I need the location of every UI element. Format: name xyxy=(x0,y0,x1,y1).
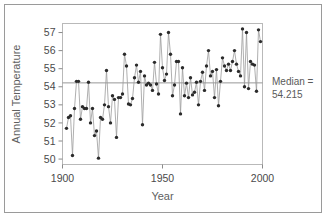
annual-temperature-chart: 5051525354555657 190019502000 Year Annua… xyxy=(0,0,326,217)
data-point xyxy=(209,74,212,77)
data-point xyxy=(97,156,100,159)
data-point xyxy=(233,49,236,52)
data-point xyxy=(161,66,164,69)
data-point xyxy=(109,121,112,124)
data-point xyxy=(93,134,96,137)
data-point xyxy=(131,97,134,100)
data-point xyxy=(103,103,106,106)
data-point xyxy=(113,98,116,101)
data-point xyxy=(249,60,252,63)
data-point xyxy=(183,94,186,97)
data-point xyxy=(115,136,118,139)
data-point xyxy=(143,74,146,77)
data-point xyxy=(141,123,144,126)
x-axis-title: Year xyxy=(151,190,174,202)
data-point xyxy=(235,62,238,65)
data-point xyxy=(133,76,136,79)
data-point xyxy=(247,87,250,90)
data-point xyxy=(105,69,108,72)
data-point xyxy=(205,64,208,67)
data-point xyxy=(149,83,152,86)
data-point xyxy=(257,28,260,31)
data-point xyxy=(87,81,90,84)
data-point xyxy=(241,27,244,30)
median-annotation-line1: Median = xyxy=(272,76,314,87)
temperature-data-points xyxy=(65,27,262,160)
data-point xyxy=(69,114,72,117)
data-point xyxy=(71,154,74,157)
data-point xyxy=(189,76,192,79)
data-point xyxy=(253,63,256,66)
y-axis-title: Annual Temperature xyxy=(10,45,22,144)
data-point xyxy=(185,81,188,84)
data-point xyxy=(231,60,234,63)
data-point xyxy=(237,70,240,73)
data-point xyxy=(191,93,194,96)
median-annotation-line2: 54.215 xyxy=(272,89,303,100)
data-point xyxy=(167,31,170,34)
data-point xyxy=(219,80,222,83)
data-point xyxy=(101,118,104,121)
plot-area-border xyxy=(63,24,263,165)
y-axis-ticks: 5051525354555657 xyxy=(44,26,63,165)
x-tick-label: 2000 xyxy=(251,172,275,184)
data-point xyxy=(199,80,202,83)
y-tick-label: 52 xyxy=(44,117,56,129)
data-point xyxy=(155,82,158,85)
data-point xyxy=(207,49,210,52)
data-point xyxy=(111,94,114,97)
y-tick-label: 54 xyxy=(44,80,56,92)
data-point xyxy=(223,64,226,67)
data-point xyxy=(243,85,246,88)
data-point xyxy=(181,66,184,69)
data-point xyxy=(65,127,68,130)
data-point xyxy=(139,70,142,73)
data-point xyxy=(221,56,224,59)
y-tick-label: 55 xyxy=(44,62,56,74)
data-point xyxy=(211,70,214,73)
data-point xyxy=(91,107,94,110)
temperature-series-line xyxy=(67,29,261,158)
data-point xyxy=(169,53,172,56)
y-tick-label: 57 xyxy=(44,26,56,38)
data-point xyxy=(227,62,230,65)
data-point xyxy=(171,94,174,97)
data-point xyxy=(203,89,206,92)
data-point xyxy=(153,61,156,64)
data-point xyxy=(187,96,190,99)
data-point xyxy=(197,103,200,106)
data-point xyxy=(125,64,128,67)
data-point xyxy=(195,81,198,84)
data-point xyxy=(89,121,92,124)
chart-figure: 5051525354555657 190019502000 Year Annua… xyxy=(0,0,326,217)
data-point xyxy=(259,40,262,43)
data-point xyxy=(79,118,82,121)
y-tick-label: 56 xyxy=(44,44,56,56)
data-point xyxy=(177,60,180,63)
data-point xyxy=(179,112,182,115)
data-point xyxy=(225,69,228,72)
data-point xyxy=(213,96,216,99)
data-point xyxy=(229,69,232,72)
data-point xyxy=(163,79,166,82)
data-point xyxy=(129,103,132,106)
data-point xyxy=(119,96,122,99)
data-point xyxy=(255,90,258,93)
data-point xyxy=(135,63,138,66)
data-point xyxy=(215,68,218,71)
data-point xyxy=(137,81,140,84)
data-point xyxy=(123,53,126,56)
data-point xyxy=(239,74,242,77)
x-tick-label: 1900 xyxy=(51,172,75,184)
data-point xyxy=(201,71,204,74)
data-point xyxy=(173,83,176,86)
x-tick-label: 1950 xyxy=(151,172,175,184)
data-point xyxy=(165,72,168,75)
data-point xyxy=(217,104,220,107)
data-point xyxy=(107,105,110,108)
y-tick-label: 53 xyxy=(44,98,56,110)
data-point xyxy=(159,33,162,36)
y-tick-label: 51 xyxy=(44,135,56,147)
data-point xyxy=(85,107,88,110)
data-point xyxy=(157,92,160,95)
